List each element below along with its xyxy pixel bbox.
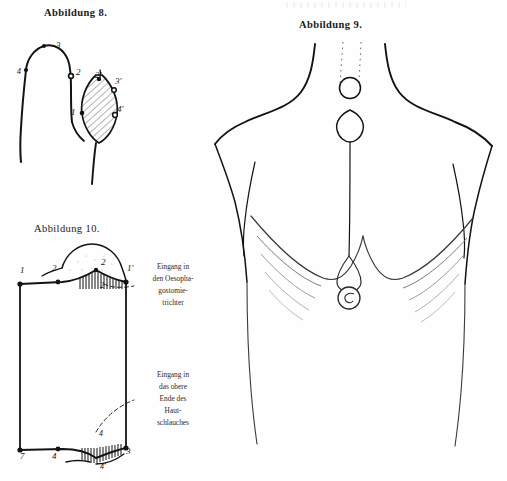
guide-line-left — [340, 42, 343, 84]
node-upper-mid-2 — [56, 280, 61, 285]
figure-10-label-4-left: 4 — [52, 452, 57, 461]
skin-tube-upper-opening — [337, 110, 364, 142]
right-neck-shoulder-line — [385, 44, 492, 146]
illustration-plate: Abbildung 8. 4 3 2 2' 3' 1 4' Abbildu — [0, 0, 507, 481]
left-arm-outer-line — [215, 144, 247, 282]
right-torso-wall — [455, 284, 465, 446]
node-3-prime — [112, 88, 117, 93]
figure-9-caption: Abbildung 9. — [299, 19, 362, 30]
figure-8-caption: Abbildung 8. — [44, 7, 107, 18]
scan-artifact — [286, 2, 406, 8]
figure-10-caption: Abbildung 10. — [34, 223, 100, 234]
right-fold-1 — [403, 238, 467, 288]
node-2 — [69, 74, 74, 79]
left-fold-4 — [269, 290, 303, 320]
flap-outline — [62, 244, 126, 282]
figure-8-label-4-prime: 4' — [117, 105, 123, 114]
figure-10-label-4-prime: 4' — [100, 463, 106, 471]
figure-8-drawing — [0, 18, 200, 198]
guide-line-right — [359, 42, 361, 84]
gastrostomy-ring-outer — [338, 287, 360, 309]
left-torso-wall — [247, 282, 257, 444]
skin-tube-shaft — [349, 142, 350, 256]
right-fold-4 — [421, 292, 455, 322]
left-axilla-fold — [243, 162, 255, 256]
right-arm-outer-line — [465, 146, 492, 284]
tube-left-wall — [72, 122, 84, 141]
neck-stoma-opening — [340, 78, 361, 99]
figure-8-label-4: 4 — [17, 68, 21, 76]
lower-tail-left — [66, 461, 90, 463]
node-1 — [80, 111, 85, 116]
neck-contour-line — [26, 45, 72, 122]
figure-10-label-1: 1 — [20, 266, 25, 275]
skin-tube-line — [92, 143, 96, 184]
node-3 — [42, 44, 46, 48]
node-upper-crest-2 — [94, 268, 98, 272]
left-neck-shoulder-line — [215, 44, 315, 144]
annotation-skin-tube-upper-end: Eingang in das obere Ende des Haut- schl… — [136, 369, 210, 429]
leader-line-hautschlauch — [96, 400, 134, 432]
figure-8-label-3-prime: 3' — [115, 77, 121, 86]
oesophagostomy-funnel-shape — [82, 75, 118, 143]
figure-10-label-2-crest: 2 — [101, 258, 106, 267]
figure-9-drawing — [215, 30, 507, 460]
node-corner-1 — [17, 281, 22, 286]
annotation-oesophagostomy-funnel: Eingang in den Oesopha- gostomie- tricht… — [136, 261, 210, 309]
node-4 — [24, 68, 28, 72]
figure-10-label-3: 3 — [126, 447, 131, 456]
figure-10-label-2-lower: 2 — [100, 282, 104, 290]
figure-10-label-7: 7 — [20, 452, 25, 461]
figure-8-label-1: 1 — [71, 108, 76, 117]
figure-8-label-2-prime: 2' — [95, 71, 101, 80]
figure-8-label-3: 3 — [56, 41, 61, 50]
node-corner-1-prime — [123, 279, 128, 284]
right-axilla-fold — [453, 164, 465, 258]
figure-10-label-4-upper: 4 — [99, 430, 103, 438]
lower-margin-line — [20, 448, 126, 458]
figure-8-label-2: 2 — [76, 68, 81, 77]
left-flank-line — [20, 70, 26, 162]
left-fold-1 — [257, 236, 321, 286]
figure-10-label-2-left: 2 — [52, 264, 57, 273]
figure-10-label-1-prime: 1' — [127, 264, 133, 273]
